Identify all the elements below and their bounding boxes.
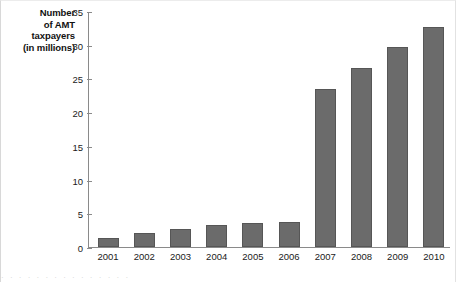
y-tick-mark xyxy=(87,181,92,182)
x-tick-label-2002: 2002 xyxy=(134,251,155,262)
x-tick-label-2007: 2007 xyxy=(315,251,336,262)
y-tick-label: 0 xyxy=(78,243,83,254)
bar-2009 xyxy=(387,47,408,247)
x-tick-label-2006: 2006 xyxy=(279,251,300,262)
y-tick-label: 30 xyxy=(72,40,83,51)
bar-2002 xyxy=(134,233,155,247)
y-tick-mark xyxy=(87,79,92,80)
y-tick-mark xyxy=(87,147,92,148)
plot-area: 05101520253035 2001200220032004200520062… xyxy=(88,12,450,248)
y-axis-label-line-2: of AMT xyxy=(1,19,75,31)
x-tick-label-2005: 2005 xyxy=(242,251,263,262)
x-tick-label-2003: 2003 xyxy=(170,251,191,262)
bar-2007 xyxy=(315,89,336,247)
y-tick-label: 20 xyxy=(72,108,83,119)
x-tick-label-2001: 2001 xyxy=(98,251,119,262)
y-axis-label-line-1: Number xyxy=(1,7,75,19)
bar-2004 xyxy=(206,225,227,247)
y-axis-line xyxy=(88,12,89,248)
y-tick-label: 5 xyxy=(78,209,83,220)
x-tick-label-2008: 2008 xyxy=(351,251,372,262)
y-axis-label-line-4: (in millions) xyxy=(1,42,75,54)
y-tick-label: 25 xyxy=(72,74,83,85)
y-tick-label: 35 xyxy=(72,7,83,18)
bar-2010 xyxy=(423,27,444,247)
x-tick-label-2010: 2010 xyxy=(423,251,444,262)
y-axis-label: Number of AMT taxpayers (in millions) xyxy=(1,7,75,53)
bar-2003 xyxy=(170,229,191,247)
page-bleed-text: · · · · · · · · · · · · · · · xyxy=(1,273,456,282)
bar-2008 xyxy=(351,68,372,247)
x-tick-label-2004: 2004 xyxy=(206,251,227,262)
y-tick-label: 15 xyxy=(72,141,83,152)
y-axis-label-line-3: taxpayers xyxy=(1,30,75,42)
bar-2005 xyxy=(242,223,263,247)
bar-2006 xyxy=(279,222,300,247)
y-tick-mark xyxy=(87,46,92,47)
y-tick-mark xyxy=(87,12,92,13)
bar-2001 xyxy=(98,238,119,247)
x-axis-line xyxy=(88,247,450,248)
y-tick-mark xyxy=(87,214,92,215)
x-tick-label-2009: 2009 xyxy=(387,251,408,262)
y-tick-mark xyxy=(87,248,92,249)
chart-figure: Number of AMT taxpayers (in millions) 05… xyxy=(0,0,456,282)
y-tick-mark xyxy=(87,113,92,114)
y-tick-label: 10 xyxy=(72,175,83,186)
